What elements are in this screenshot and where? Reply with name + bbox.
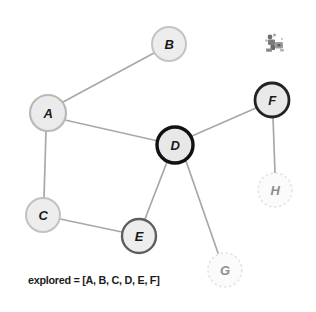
node-label-d: D (170, 138, 180, 153)
edge-a-c (44, 131, 46, 198)
graph-node-h[interactable]: H (258, 173, 292, 207)
nodes-layer: ABCDEFGH (26, 27, 292, 287)
robot-sprite-icon (261, 31, 291, 57)
graph-node-d[interactable]: D (157, 127, 193, 163)
graph-node-c[interactable]: C (26, 198, 60, 232)
node-label-g: G (220, 263, 230, 278)
graph-node-g[interactable]: G (208, 253, 242, 287)
diagram-canvas: ABCDEFGH explored = [A, B, C, D, E, F] (0, 0, 316, 312)
edge-d-f (192, 108, 256, 136)
graph-node-f[interactable]: F (255, 83, 289, 117)
edge-d-e (145, 162, 167, 219)
edge-a-d (65, 120, 158, 141)
edge-c-e (60, 219, 122, 232)
graph-node-b[interactable]: B (152, 27, 186, 61)
node-label-e: E (135, 229, 144, 244)
node-label-h: H (270, 183, 280, 198)
node-label-a: A (42, 106, 52, 121)
graph-node-a[interactable]: A (30, 95, 66, 131)
graph-node-e[interactable]: E (122, 219, 156, 253)
node-label-f: F (268, 93, 277, 108)
edge-a-b (63, 53, 154, 102)
explored-caption: explored = [A, B, C, D, E, F] (28, 274, 159, 286)
edge-f-h (273, 117, 275, 173)
node-label-b: B (164, 37, 173, 52)
node-label-c: C (38, 208, 48, 223)
edge-d-g (186, 161, 218, 253)
